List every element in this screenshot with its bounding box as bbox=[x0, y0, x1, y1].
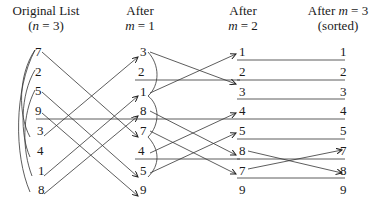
original-item: 9 bbox=[35, 104, 42, 118]
after-m2-item: 5 bbox=[239, 124, 246, 138]
sorted-item: 8 bbox=[340, 164, 347, 178]
after-m1-item: 3 bbox=[140, 45, 147, 59]
sorted-item: 2 bbox=[340, 65, 347, 79]
header-line: After bbox=[115, 3, 165, 18]
after-m2-item: 7 bbox=[239, 164, 246, 178]
original-item: 7 bbox=[35, 45, 42, 59]
header-sorted: After m = 3 (sorted) bbox=[300, 3, 376, 33]
original-item: 4 bbox=[37, 144, 44, 158]
after-m2-item: 1 bbox=[239, 45, 246, 59]
header-line: Original List bbox=[2, 3, 90, 18]
after-m2-item: 8 bbox=[239, 144, 246, 158]
sorted-item: 9 bbox=[340, 183, 347, 197]
after-m2-item: 9 bbox=[239, 183, 246, 197]
after-m1-item: 5 bbox=[140, 164, 147, 178]
header-line: After bbox=[218, 3, 268, 18]
after-m2-item: 2 bbox=[239, 65, 246, 79]
header-line: m = 2 bbox=[218, 18, 268, 33]
header-line: (sorted) bbox=[300, 18, 376, 33]
original-item: 3 bbox=[37, 124, 44, 138]
original-item: 5 bbox=[35, 84, 42, 98]
header-line: (n = 3) bbox=[2, 18, 90, 33]
group-arc bbox=[25, 90, 35, 176]
sorted-item: 7 bbox=[340, 144, 347, 158]
after-m2-item: 4 bbox=[239, 104, 246, 118]
after-m1-item: 9 bbox=[140, 183, 147, 197]
sorted-item: 3 bbox=[340, 85, 347, 99]
after-m2-item: 3 bbox=[239, 85, 246, 99]
header-line: m = 1 bbox=[115, 18, 165, 33]
sorted-item: 5 bbox=[340, 124, 347, 138]
header-after-m2: After m = 2 bbox=[218, 3, 268, 33]
header-line: After m = 3 bbox=[300, 3, 376, 18]
original-item: 2 bbox=[35, 65, 42, 79]
after-m1-item: 8 bbox=[140, 104, 147, 118]
group-arc bbox=[19, 50, 35, 192]
after-m1-item: 1 bbox=[140, 85, 147, 99]
header-original-list: Original List (n = 3) bbox=[2, 3, 90, 33]
sorted-item: 1 bbox=[340, 45, 347, 59]
after-m1-item: 7 bbox=[140, 124, 147, 138]
header-after-m1: After m = 1 bbox=[115, 3, 165, 33]
original-item: 8 bbox=[38, 183, 45, 197]
sorted-item: 4 bbox=[340, 104, 347, 118]
original-item: 1 bbox=[38, 164, 45, 178]
after-m1-item: 4 bbox=[138, 144, 145, 158]
after-m1-item: 2 bbox=[138, 65, 145, 79]
